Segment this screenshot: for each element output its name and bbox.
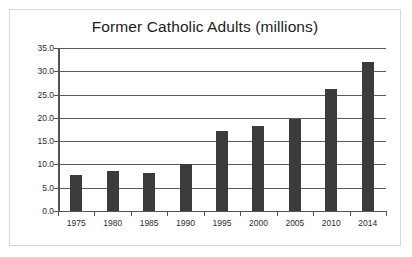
- x-axis-tick-mark: [386, 212, 387, 216]
- y-axis-tick-label: 30.0: [20, 66, 54, 76]
- bar-slot: [167, 48, 203, 211]
- bar-series: [58, 48, 386, 211]
- x-axis-tick-mark: [313, 212, 314, 216]
- bar-slot: [313, 48, 349, 211]
- x-axis-tick-label: 1975: [67, 218, 86, 228]
- bar-slot: [204, 48, 240, 211]
- x-axis-tick-label: 1980: [103, 218, 122, 228]
- x-axis-tick-labels: 197519801985199019952000200520102014: [58, 218, 386, 234]
- x-axis-tick-label: 1995: [213, 218, 232, 228]
- x-axis-tick-label: 2010: [322, 218, 341, 228]
- x-axis-tick-marks: [58, 212, 387, 217]
- x-axis-tick-mark: [58, 212, 59, 216]
- bar-slot: [240, 48, 276, 211]
- x-axis-tick-mark: [94, 212, 95, 216]
- bar-slot: [277, 48, 313, 211]
- x-axis-tick-label: 1990: [176, 218, 195, 228]
- y-axis-tick-label: 20.0: [20, 113, 54, 123]
- bar-slot: [131, 48, 167, 211]
- bar-slot: [94, 48, 130, 211]
- y-axis-tick-label: 25.0: [20, 90, 54, 100]
- x-axis-tick-mark: [204, 212, 205, 216]
- chart-title: Former Catholic Adults (millions): [10, 18, 400, 36]
- bar[interactable]: [362, 62, 374, 211]
- y-axis-tick-label: 5.0: [20, 183, 54, 193]
- y-axis-tick-label: 10.0: [20, 159, 54, 169]
- chart-frame: Former Catholic Adults (millions) 0.05.0…: [9, 9, 401, 246]
- bar[interactable]: [143, 173, 155, 211]
- x-axis-tick-label: 2005: [285, 218, 304, 228]
- bar[interactable]: [252, 126, 264, 211]
- x-axis-tick-label: 2000: [249, 218, 268, 228]
- x-axis-tick-label: 2014: [358, 218, 377, 228]
- y-axis-tick-labels: 0.05.010.015.020.025.030.035.0: [14, 48, 54, 211]
- bar[interactable]: [107, 171, 119, 211]
- bar-slot: [58, 48, 94, 211]
- bar[interactable]: [180, 164, 192, 211]
- bar[interactable]: [70, 175, 82, 211]
- x-axis-tick-mark: [277, 212, 278, 216]
- y-axis-tick-label: 35.0: [20, 43, 54, 53]
- y-axis-tick-label: 15.0: [20, 136, 54, 146]
- x-axis-tick-label: 1985: [140, 218, 159, 228]
- x-axis-tick-mark: [167, 212, 168, 216]
- bar[interactable]: [325, 89, 337, 211]
- bar[interactable]: [216, 131, 228, 211]
- x-axis-tick-mark: [350, 212, 351, 216]
- y-axis-tick-label: 0.0: [20, 206, 54, 216]
- x-axis-tick-mark: [131, 212, 132, 216]
- bar[interactable]: [289, 119, 301, 211]
- x-axis-tick-mark: [240, 212, 241, 216]
- bar-slot: [350, 48, 386, 211]
